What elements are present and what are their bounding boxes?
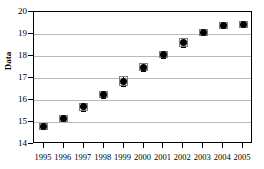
x-tick-mark xyxy=(43,143,44,148)
x-tick-mark xyxy=(143,143,144,148)
chart-figure: Data 14151617181920 19951996199719981999… xyxy=(0,0,264,169)
x-tick-mark xyxy=(162,143,163,148)
error-bar-cap xyxy=(141,71,146,72)
x-tick-mark xyxy=(182,143,183,148)
gridline xyxy=(34,78,251,79)
y-tick-label: 20 xyxy=(1,7,27,16)
gridline xyxy=(34,56,251,57)
plot-area xyxy=(33,11,252,143)
data-point xyxy=(220,22,227,29)
x-tick-label: 2005 xyxy=(226,152,258,162)
y-tick-label: 18 xyxy=(1,51,27,60)
error-bar-cap xyxy=(181,47,186,48)
data-point xyxy=(140,64,147,71)
x-tick-mark xyxy=(83,143,84,148)
gridline xyxy=(34,34,251,35)
x-tick-mark xyxy=(103,143,104,148)
x-tick-mark xyxy=(202,143,203,148)
error-bar-cap xyxy=(121,86,126,87)
y-tick-label: 19 xyxy=(1,29,27,38)
x-tick-mark xyxy=(63,143,64,148)
y-tick-label: 16 xyxy=(1,95,27,104)
error-bar-cap xyxy=(81,111,86,112)
x-tick-mark xyxy=(242,143,243,148)
gridline xyxy=(34,100,251,101)
y-tick-mark xyxy=(28,143,33,144)
x-tick-mark xyxy=(123,143,124,148)
data-point xyxy=(120,78,127,85)
x-tick-mark xyxy=(222,143,223,148)
data-point xyxy=(240,21,247,28)
y-tick-label: 17 xyxy=(1,73,27,82)
y-tick-label: 15 xyxy=(1,117,27,126)
y-tick-label: 14 xyxy=(1,139,27,148)
